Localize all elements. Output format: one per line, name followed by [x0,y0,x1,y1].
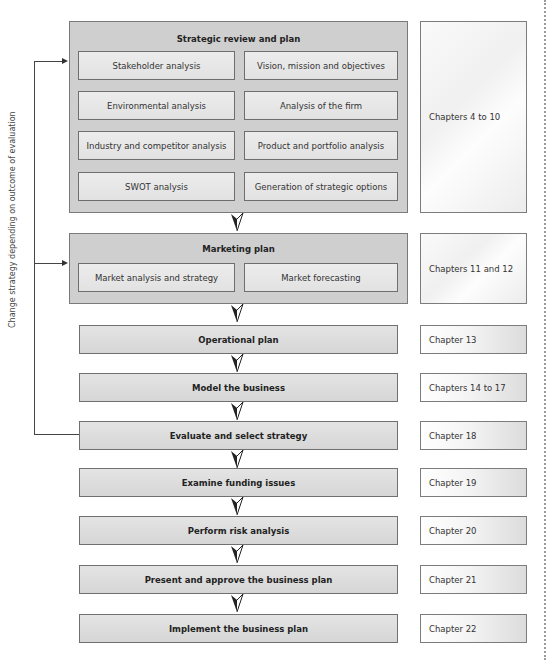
chapter-ref-marketing: Chapters 11 and 12 [420,233,527,304]
step-evaluate-strategy: Evaluate and select strategy [79,421,398,450]
chapter-ref-13: Chapter 13 [420,325,527,354]
step-risk-analysis: Perform risk analysis [79,516,398,545]
feedback-arrow-right-icon [62,260,68,266]
chapter-ref-22: Chapter 22 [420,614,527,643]
down-arrow-icon [230,353,244,373]
stakeholder-analysis-box: Stakeholder analysis [78,51,235,80]
page-margin-dotted-line [544,0,546,660]
chapter-ref-strategic: Chapters 4 to 10 [420,21,527,213]
swot-analysis-box: SWOT analysis [78,172,235,201]
down-arrow-icon [230,449,244,469]
chapter-ref-14-17: Chapters 14 to 17 [420,373,527,402]
down-arrow-icon [230,303,244,323]
industry-competitor-box: Industry and competitor analysis [78,131,235,160]
feedback-line-vertical [34,61,35,435]
down-arrow-icon [230,593,244,613]
step-model-business: Model the business [79,373,398,402]
feedback-arrow-right-icon [62,58,68,64]
chapter-ref-19: Chapter 19 [420,468,527,497]
down-arrow-icon [230,544,244,564]
feedback-label: Change strategy depending on outcome of … [8,88,17,328]
strategic-options-box: Generation of strategic options [244,172,398,201]
chapter-ref-18: Chapter 18 [420,421,527,450]
down-arrow-icon [230,401,244,421]
marketing-plan-title: Marketing plan [70,244,407,254]
analysis-of-firm-box: Analysis of the firm [244,91,398,120]
environmental-analysis-box: Environmental analysis [78,91,235,120]
chapter-ref-20: Chapter 20 [420,516,527,545]
step-present-approve: Present and approve the business plan [79,565,398,594]
strategic-review-title: Strategic review and plan [70,34,407,44]
vision-mission-box: Vision, mission and objectives [244,51,398,80]
step-operational-plan: Operational plan [79,325,398,354]
feedback-line-middle [34,263,64,264]
chapter-ref-21: Chapter 21 [420,565,527,594]
feedback-line-top [34,61,64,62]
product-portfolio-box: Product and portfolio analysis [244,131,398,160]
feedback-line-bottom [34,434,79,435]
step-funding-issues: Examine funding issues [79,468,398,497]
down-arrow-icon [230,496,244,516]
market-analysis-box: Market analysis and strategy [78,263,235,292]
down-arrow-icon [230,212,244,232]
step-implement-plan: Implement the business plan [79,614,398,643]
market-forecasting-box: Market forecasting [244,263,398,292]
